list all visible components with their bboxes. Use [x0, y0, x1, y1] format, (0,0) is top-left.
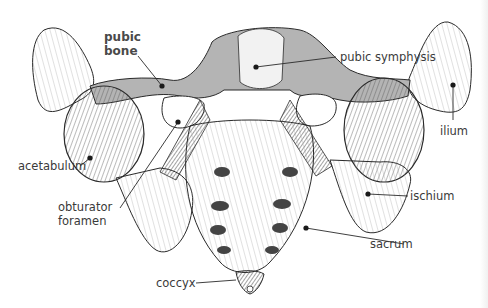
sacrum-body — [186, 120, 314, 273]
anatomy-diagram: pubic bone pubic symphysis ilium acetabu… — [0, 0, 488, 308]
label-obturator-foramen: obturator foramen — [58, 200, 112, 228]
label-pubic-bone: pubic bone — [104, 30, 141, 58]
pelvis-illustration — [0, 0, 488, 308]
left-ischium — [116, 168, 193, 252]
right-ilium — [408, 22, 471, 112]
right-ischium — [330, 160, 411, 233]
label-obturator-line2: foramen — [58, 214, 112, 228]
label-ischium: ischium — [410, 189, 454, 203]
label-acetabulum: acetabulum — [18, 159, 86, 173]
label-pubic-bone-line2: bone — [104, 44, 141, 58]
label-pubic-symphysis: pubic symphysis — [340, 50, 436, 64]
label-obturator-line1: obturator — [58, 200, 112, 214]
symphysis — [238, 29, 284, 89]
label-ilium: ilium — [440, 124, 468, 138]
label-sacrum: sacrum — [370, 237, 413, 251]
label-coccyx: coccyx — [156, 276, 196, 290]
label-pubic-bone-line1: pubic — [104, 30, 141, 44]
